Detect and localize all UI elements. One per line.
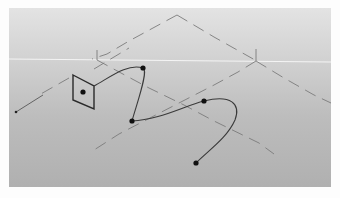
guide-right-outer — [256, 61, 331, 103]
guide-upper-ray — [94, 48, 129, 69]
guide-left-outer — [39, 78, 69, 95]
camera-ray — [16, 95, 43, 112]
control-point-3[interactable] — [201, 98, 206, 103]
guide-roof-right — [177, 15, 255, 60]
page: 3D viewport — [0, 0, 340, 198]
control-point-2[interactable] — [129, 118, 134, 123]
guide-roof-left — [92, 15, 177, 59]
guide-box — [39, 15, 331, 154]
camera-ray-endpoint[interactable] — [15, 111, 18, 114]
control-point-4[interactable] — [193, 160, 198, 165]
bezier-curve[interactable] — [94, 67, 237, 163]
image-plane-center-point[interactable] — [80, 89, 85, 94]
guide-right-lower — [94, 61, 256, 150]
horizon-line — [9, 59, 331, 62]
3d-viewport[interactable]: 3D viewport — [9, 8, 331, 187]
control-point-1[interactable] — [140, 65, 145, 70]
viewport-canvas[interactable] — [9, 8, 331, 187]
